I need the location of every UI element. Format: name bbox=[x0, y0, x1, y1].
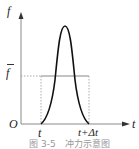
impulse-force-diagram: f f O t t+Δt t 图 3-5 冲力示意图 bbox=[0, 0, 139, 149]
diagram-canvas bbox=[0, 0, 139, 149]
force-curve bbox=[41, 26, 89, 124]
t-end-label: t+Δt bbox=[78, 127, 98, 138]
origin-label: O bbox=[9, 118, 18, 130]
y-axis-arrow-icon bbox=[19, 12, 24, 19]
x-axis-arrow-icon bbox=[122, 122, 130, 127]
y-axis-label: f bbox=[7, 5, 10, 17]
t-start-label: t bbox=[38, 127, 41, 139]
figure-caption: 图 3-5 冲力示意图 bbox=[0, 140, 139, 149]
overbar bbox=[7, 64, 14, 65]
average-force-label: f bbox=[6, 66, 9, 81]
x-axis-label: t bbox=[132, 118, 135, 130]
